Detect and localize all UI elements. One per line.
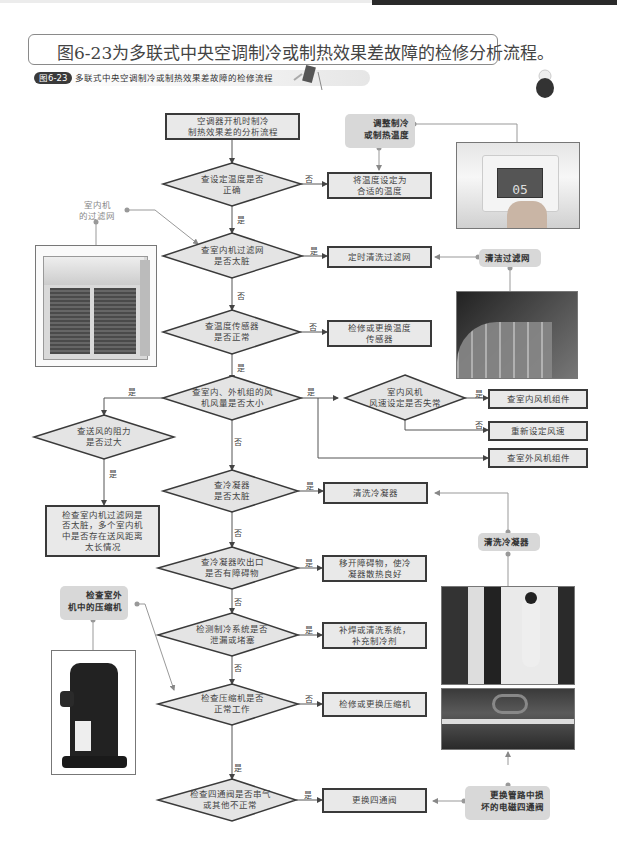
label-no: 否 [234, 596, 242, 607]
label-no: 否 [475, 419, 483, 430]
photo-four-way-valve [441, 688, 575, 750]
label-yes: 是 [304, 789, 312, 800]
label-no: 否 [237, 290, 245, 301]
label-yes: 是 [306, 480, 314, 491]
decision-fan-speed: 室内风机 风速设定是否失常 [352, 385, 458, 411]
label-yes: 是 [237, 362, 245, 373]
label-yes: 是 [237, 214, 245, 225]
label-yes: 是 [475, 388, 483, 399]
label-no: 否 [305, 173, 313, 184]
action-check-indoor-fan: 查室内风机组件 [488, 389, 588, 409]
action-check-outdoor-fan: 查室外风机组件 [488, 448, 588, 468]
photo-filter-cleaning [456, 291, 578, 379]
label-yes: 是 [310, 245, 318, 256]
label-yes: 是 [234, 762, 242, 773]
thermostat-screen: 05 [497, 168, 543, 198]
label-yes: 是 [307, 386, 315, 397]
label-yes: 是 [128, 386, 136, 397]
decision-condenser-outlet: 查冷凝器吹出口 是否有障碍物 [170, 555, 294, 581]
action-weld-recharge: 补焊或清洗系统， 补充制冷剂 [322, 622, 427, 649]
decision-fan-airflow: 查室内、外机组的风 机风量是否太小 [170, 385, 294, 411]
photo-indoor-filter [35, 245, 157, 367]
decision-refrigerant-leak: 检测制冷系统是否 泄漏或堵塞 [170, 622, 294, 648]
action-clean-condenser: 清洗冷凝器 [323, 482, 428, 504]
action-repair-sensor: 检修或更换温度 传感器 [327, 320, 432, 347]
decision-air-resistance: 查送风的阻力 是否过大 [48, 424, 160, 450]
label-no: 否 [234, 662, 242, 673]
decision-condenser-dirty: 查冷凝器 是否太脏 [175, 478, 289, 504]
label-no: 否 [305, 693, 313, 704]
action-remove-obstacle: 移开障碍物，使冷 凝器散热良好 [322, 555, 427, 582]
label-yes: 是 [305, 624, 313, 635]
label-no: 否 [234, 436, 242, 447]
label-no: 否 [234, 527, 242, 538]
decision-compressor-ok: 检查压缩机是否 正常工作 [170, 691, 294, 717]
decision-temp-setting: 查设定温度是否 正确 [175, 172, 289, 198]
photo-condenser-washing [441, 586, 575, 685]
thermostat-reading: 05 [512, 182, 528, 197]
callout-replace-valve: 更换管路中损 坏的电磁四通阀 [465, 786, 550, 820]
callout-adjust-temperature: 调整制冷 或制热温度 [345, 114, 415, 148]
photo-thermostat: 05 [456, 142, 580, 229]
label-no: 否 [309, 321, 317, 332]
action-check-air-path: 检查室内机过滤网是 否太脏，多个室内机 中是否存在送风距离 太长情况 [45, 505, 160, 557]
photo-compressor [51, 650, 136, 775]
label-yes: 是 [109, 468, 117, 479]
callout-clean-filter: 清洁过滤网 [479, 249, 541, 267]
decision-temp-sensor: 查温度传感器 是否正常 [175, 319, 289, 345]
action-set-temperature: 将温度设定为 合适的温度 [327, 172, 432, 199]
action-replace-valve: 更换四通阀 [322, 788, 427, 813]
action-reset-fan-speed: 重新设定风速 [488, 421, 588, 441]
decision-four-way-valve: 检查四通阀是否串气 或其他不正常 [165, 787, 295, 813]
decision-filter-dirty: 查室内机过滤网 是否太脏 [175, 243, 289, 269]
action-clean-filter: 定时清洗过滤网 [327, 246, 432, 268]
label-yes: 是 [305, 557, 313, 568]
callout-indoor-filter: 室内机 的过滤网 [72, 200, 122, 222]
action-repair-compressor: 检修或更换压缩机 [322, 692, 427, 717]
callout-clean-condenser: 清洗冷凝器 [478, 533, 540, 551]
start-box: 空调器开机时制冷 制热效果差的分析流程 [165, 113, 300, 140]
callout-check-compressor: 检查室外 机中的压缩机 [60, 586, 128, 620]
